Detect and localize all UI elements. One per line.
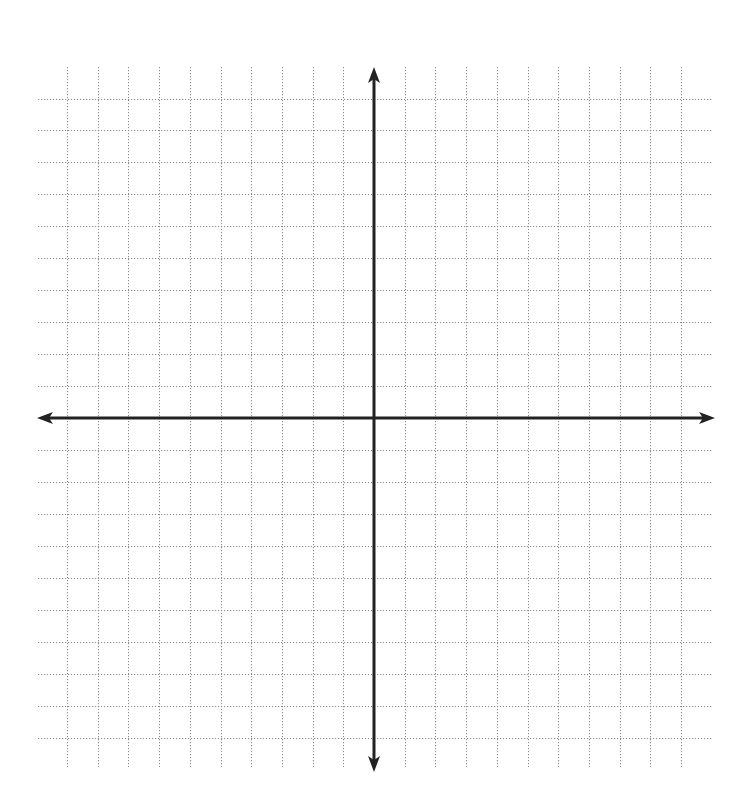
axes: [37, 67, 715, 772]
coordinate-plane: [0, 0, 745, 811]
